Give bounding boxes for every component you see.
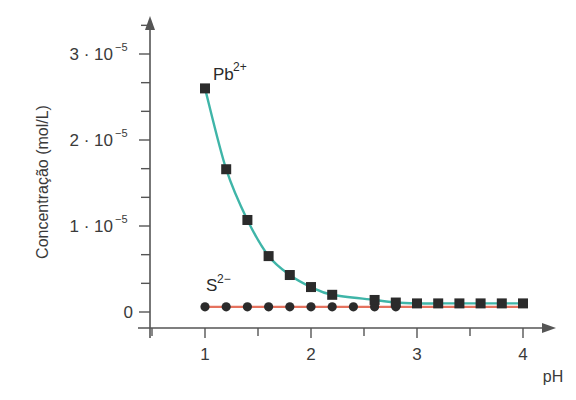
y-axis-arrow-icon bbox=[145, 16, 155, 30]
pb-marker-square bbox=[454, 298, 464, 308]
y-tick-label: 1 · 10 bbox=[70, 217, 113, 236]
pb-marker-square bbox=[518, 298, 528, 308]
s2-marker-circle bbox=[243, 302, 252, 311]
y-axis-label: Concentração (mol/L) bbox=[34, 105, 51, 259]
pb-marker-square bbox=[476, 298, 486, 308]
s2-series-superscript: 2− bbox=[217, 272, 231, 286]
s2-marker-circle bbox=[285, 302, 294, 311]
x-axis-label: pH bbox=[543, 368, 563, 385]
axes bbox=[138, 16, 556, 338]
x-tick-label: 3 bbox=[412, 345, 421, 364]
pb-marker-square bbox=[200, 83, 210, 93]
pb-series-superscript: 2+ bbox=[233, 60, 247, 74]
pb-marker-square bbox=[306, 282, 316, 292]
pb-curve bbox=[205, 88, 523, 303]
s2-marker-circle bbox=[200, 302, 209, 311]
y-tick-exponent: −5 bbox=[115, 41, 128, 53]
pb-marker-square bbox=[370, 295, 380, 305]
x-axis-arrow-icon bbox=[542, 323, 556, 333]
series-group bbox=[200, 83, 528, 311]
pb-marker-square bbox=[242, 215, 252, 225]
pb-series-label: Pb bbox=[213, 65, 234, 84]
y-tick-exponent: −5 bbox=[115, 127, 128, 139]
pb-marker-square bbox=[391, 298, 401, 308]
s2-marker-circle bbox=[349, 302, 358, 311]
s2-marker-circle bbox=[306, 302, 315, 311]
pb-marker-square bbox=[327, 290, 337, 300]
concentration-vs-ph-chart: 01 · 10−52 · 10−53 · 10−5 1234 Pb2+S2−pH… bbox=[0, 0, 576, 400]
x-tick-label: 1 bbox=[200, 345, 209, 364]
x-axis-ticks: 1234 bbox=[152, 328, 528, 364]
y-tick-label: 2 · 10 bbox=[70, 131, 113, 150]
pb-marker-square bbox=[497, 298, 507, 308]
pb-marker-square bbox=[433, 298, 443, 308]
pb-marker-square bbox=[264, 251, 274, 261]
y-axis-ticks: 01 · 10−52 · 10−53 · 10−5 bbox=[70, 25, 150, 322]
pb-marker-square bbox=[285, 270, 295, 280]
s2-marker-circle bbox=[264, 302, 273, 311]
s2-marker-circle bbox=[328, 302, 337, 311]
y-tick-label: 0 bbox=[124, 303, 133, 322]
x-tick-label: 2 bbox=[306, 345, 315, 364]
y-tick-label: 3 · 10 bbox=[70, 45, 113, 64]
y-tick-exponent: −5 bbox=[115, 213, 128, 225]
s2-marker-circle bbox=[222, 302, 231, 311]
pb-marker-square bbox=[221, 164, 231, 174]
pb-marker-square bbox=[412, 298, 422, 308]
s2-series-label: S bbox=[206, 276, 217, 295]
labels-group: Pb2+S2−pHConcentração (mol/L) bbox=[34, 60, 563, 385]
x-tick-label: 4 bbox=[518, 345, 527, 364]
